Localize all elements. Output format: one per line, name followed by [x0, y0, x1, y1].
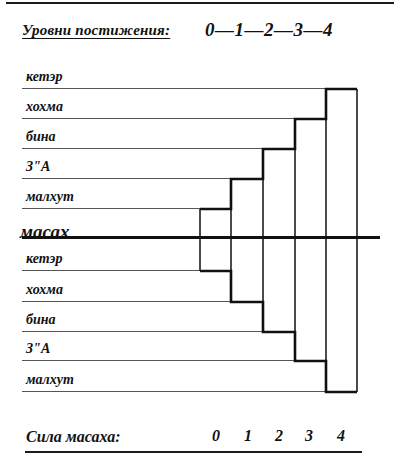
masah-strength-value-1: 1: [238, 427, 258, 445]
masah-strength-value-0: 0: [206, 427, 226, 445]
staircase-chart: [0, 0, 400, 474]
masah-strength-value-3: 3: [299, 427, 319, 445]
lower-staircase-outline: [200, 271, 357, 392]
footer-rule: [25, 451, 362, 453]
masah-strength-label: Сила масаха:: [26, 428, 121, 446]
masah-strength-value-2: 2: [269, 427, 289, 445]
lower-column-edges: [200, 237, 357, 392]
diagram-canvas: Уровни постижения: 0—1—2—3—4 кетэр хохма…: [0, 0, 400, 474]
upper-column-edges: [200, 89, 357, 237]
masah-strength-value-4: 4: [331, 427, 351, 445]
upper-staircase-outline: [200, 89, 357, 209]
